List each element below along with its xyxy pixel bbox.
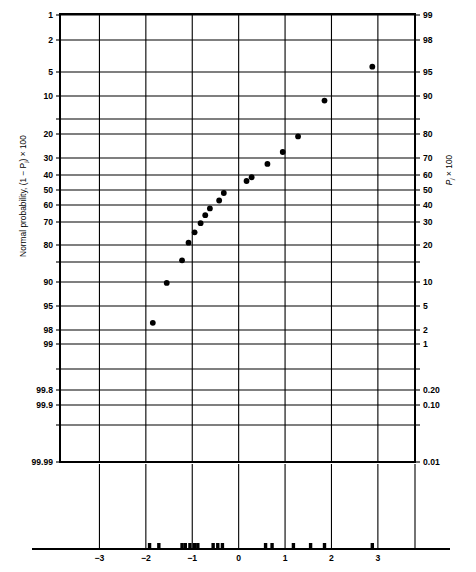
x-tick-label-2: 2: [329, 553, 334, 563]
right-axis-title: Pj × 100: [444, 154, 455, 185]
data-point-14: [280, 149, 286, 155]
right-tick-label-99: 99: [423, 10, 433, 20]
right-tick-label-30: 30: [423, 217, 433, 227]
data-point-3: [179, 257, 185, 263]
data-point-2: [164, 280, 170, 286]
x-tick-label-3: 3: [375, 553, 380, 563]
right-tick-label-1: 1: [423, 339, 428, 349]
data-point-11: [244, 178, 250, 184]
x-tick-label-0: 0: [236, 553, 241, 563]
data-point-9: [216, 198, 222, 204]
rug-mark-13: [292, 543, 295, 549]
left-tick-label-98: 98: [43, 325, 53, 335]
right-tick-label-2: 2: [423, 325, 428, 335]
right-tick-label-0.20: 0.20: [423, 385, 440, 395]
left-tick-label-95: 95: [43, 301, 53, 311]
right-tick-label-5: 5: [423, 301, 428, 311]
left-tick-label-10: 10: [43, 91, 53, 101]
rug-mark-3: [180, 543, 183, 549]
data-point-6: [198, 220, 204, 226]
rug-mark-5: [188, 543, 191, 549]
left-axis-title-tail: ) × 100: [18, 135, 28, 162]
rug-mark-12: [270, 543, 273, 549]
right-tick-label-98: 98: [423, 35, 433, 45]
rug-mark-11: [264, 543, 267, 549]
rug-mark-14: [309, 543, 312, 549]
right-tick-label-0.10: 0.10: [423, 400, 440, 410]
right-tick-label-95: 95: [423, 67, 433, 77]
right-tick-label-10: 10: [423, 277, 433, 287]
left-tick-label-80: 80: [43, 240, 53, 250]
x-tick-label-1: 1: [283, 553, 288, 563]
rug-mark-7: [196, 543, 199, 549]
rug-mark-4: [184, 543, 187, 549]
left-tick-label-5: 5: [48, 67, 53, 77]
data-point-5: [192, 229, 198, 235]
rug-mark-8: [211, 543, 214, 549]
left-tick-label-60: 60: [43, 200, 53, 210]
rug-mark-6: [193, 543, 196, 549]
left-tick-label-70: 70: [43, 217, 53, 227]
data-point-8: [207, 206, 213, 212]
left-axis-title-main: Normal probability, (1 − P: [18, 162, 28, 257]
right-tick-label-50: 50: [423, 185, 433, 195]
plot-canvas: 12510203040506070809095989999.899.999.99…: [0, 0, 476, 572]
data-point-1: [150, 320, 156, 326]
left-tick-label-99.9: 99.9: [36, 400, 53, 410]
left-tick-label-40: 40: [43, 170, 53, 180]
left-tick-label-99.8: 99.8: [36, 385, 53, 395]
left-tick-label-99: 99: [43, 339, 53, 349]
right-tick-label-20: 20: [423, 240, 433, 250]
probability-plot-figure: 12510203040506070809095989999.899.999.99…: [0, 0, 476, 572]
right-tick-label-0.01: 0.01: [423, 457, 440, 467]
rug-mark-10: [221, 543, 224, 549]
left-tick-label-1: 1: [48, 10, 53, 20]
right-tick-label-40: 40: [423, 200, 433, 210]
data-point-15: [295, 134, 301, 140]
left-tick-label-50: 50: [43, 185, 53, 195]
left-tick-label-99.99: 99.99: [31, 457, 53, 467]
x-tick-label--1: −1: [187, 553, 197, 563]
left-tick-label-20: 20: [43, 129, 53, 139]
x-tick-label--2: −2: [141, 553, 151, 563]
right-tick-label-70: 70: [423, 153, 433, 163]
right-tick-label-90: 90: [423, 91, 433, 101]
figure-background: [0, 0, 476, 572]
data-point-7: [202, 212, 208, 218]
svg-text:Pj × 100: Pj × 100: [444, 154, 455, 185]
left-tick-label-90: 90: [43, 277, 53, 287]
svg-text:Normal probability, (1 − Pj) ×: Normal probability, (1 − Pj) × 100: [18, 135, 29, 257]
data-point-13: [265, 161, 271, 167]
rug-mark-2: [157, 543, 160, 549]
rug-mark-16: [371, 543, 374, 549]
x-tick-label--3: −3: [95, 553, 105, 563]
data-point-16: [322, 98, 328, 104]
right-axis-title-tail: × 100: [444, 154, 454, 178]
left-tick-label-2: 2: [48, 35, 53, 45]
rug-mark-15: [323, 543, 326, 549]
right-tick-label-60: 60: [423, 170, 433, 180]
data-point-17: [369, 64, 375, 70]
left-tick-label-30: 30: [43, 153, 53, 163]
left-axis-title: Normal probability, (1 − Pj) × 100: [18, 135, 29, 257]
data-point-12: [249, 174, 255, 180]
right-tick-label-80: 80: [423, 129, 433, 139]
data-point-4: [186, 240, 192, 246]
data-point-10: [221, 190, 227, 196]
rug-mark-1: [148, 543, 151, 549]
rug-mark-9: [216, 543, 219, 549]
